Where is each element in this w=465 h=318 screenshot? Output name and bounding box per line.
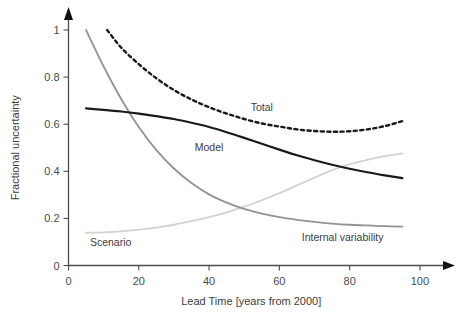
y-tick-label: 0.6: [44, 118, 59, 130]
y-axis-title: Fractional uncertainty: [9, 95, 21, 201]
x-tick-label: 0: [65, 275, 71, 287]
series-line-internal-variability: [86, 153, 402, 232]
x-axis-title: Lead Time [years from 2000]: [181, 295, 321, 307]
y-tick-label: 0.8: [44, 71, 59, 83]
chart-canvas: 00.20.40.60.81020406080100Lead Time [yea…: [0, 0, 465, 318]
plot-layer: 00.20.40.60.81020406080100Lead Time [yea…: [9, 7, 455, 307]
arrow-up-icon: [64, 7, 73, 20]
y-tick-label: 0.2: [44, 212, 59, 224]
x-tick-label: 20: [133, 275, 145, 287]
x-tick-label: 80: [344, 275, 356, 287]
uncertainty-chart: 00.20.40.60.81020406080100Lead Time [yea…: [0, 0, 465, 318]
arrow-right-icon: [443, 261, 455, 270]
series-label-model: Model: [195, 141, 224, 153]
y-tick-label: 0: [53, 260, 59, 272]
x-tick-label: 100: [411, 275, 429, 287]
y-tick-label: 0.4: [44, 165, 59, 177]
series-label-total: Total: [251, 101, 273, 113]
x-tick-label: 60: [273, 275, 285, 287]
x-tick-label: 40: [203, 275, 215, 287]
series-label-scenario: Scenario: [90, 236, 132, 248]
y-tick-label: 1: [53, 24, 59, 36]
series-label-internal-variability: Internal variability: [302, 231, 384, 243]
